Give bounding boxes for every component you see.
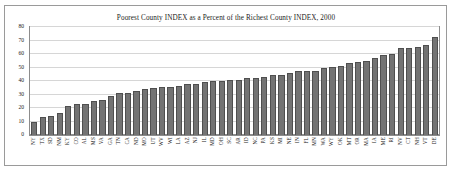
x-tick-label: NV [398,137,403,145]
x-tick-label: CO [74,137,79,145]
x-tick-label: FL [304,137,309,143]
x-tick-label: CT [406,137,411,144]
x-tick-label: NH [415,137,420,145]
bar [423,45,429,135]
chart-title: Poorest County INDEX as a Percent of the… [0,14,452,22]
x-tick-label: ME [381,137,386,145]
x-tick-label: NY [31,137,36,145]
x-tick-label: TX [40,137,45,144]
bar [57,113,63,135]
y-tick-label: 40 [18,78,24,84]
bar [159,87,165,135]
x-tick-label: AR [236,137,241,145]
bar [99,100,105,135]
chart-figure: Poorest County INDEX as a Percent of the… [0,0,452,172]
bar [261,77,267,135]
x-tick-label: SD [48,137,53,144]
bar [193,84,199,135]
bar [202,82,208,135]
x-tick-label: TN [116,137,121,144]
bar [125,93,131,135]
y-tick-label: 30 [18,92,24,98]
x-tick-label: MI [278,137,283,144]
bar-series [30,27,439,135]
bar [372,58,378,135]
x-tick-label: NJ [193,137,198,143]
x-tick-label: VT [423,137,428,144]
x-tick-label: VA [99,137,104,144]
bar [346,63,352,135]
bar [406,48,412,135]
bar [176,86,182,135]
bar [133,91,139,135]
x-tick-label: WV [159,137,164,146]
bar [321,68,327,136]
x-tick-label: OH [219,137,224,145]
x-tick-label: MN [312,137,317,146]
x-tick-label: OK [338,137,343,145]
x-tick-label: RI [389,137,394,143]
bar [389,54,395,135]
bar [329,67,335,135]
bar [227,80,233,135]
bar [380,55,386,135]
x-tick-label: NC [253,137,258,145]
x-tick-label: CA [125,137,130,145]
x-tick-label: AL [82,137,87,144]
bar [142,89,148,135]
x-tick-label: AZ [185,137,190,144]
bar [219,81,225,135]
bar [82,104,88,135]
bar [295,71,301,135]
x-tick-label: LA [176,137,181,144]
bar [270,75,276,135]
bar [287,73,293,135]
y-tick-label: 10 [18,119,24,125]
bar [74,104,80,135]
bar [415,47,421,135]
x-tick-label: WA [321,137,326,145]
bar [108,96,114,135]
x-tick-label: ID [244,137,249,143]
x-tick-label: ND [134,137,139,145]
bar [65,106,71,135]
bar [236,80,242,135]
bar [150,88,156,135]
x-tick-label: WY [329,137,334,146]
x-tick-label: IL [202,137,207,142]
x-tick-label: GA [108,137,113,145]
y-tick-label: 60 [18,51,24,57]
y-tick-label: 20 [18,105,24,111]
bar [432,37,438,135]
x-tick-label: MT [347,137,352,145]
bar [338,66,344,135]
bar [278,75,284,135]
x-tick-label: NM [57,137,62,146]
x-tick-label: MO [142,137,147,146]
bar [312,71,318,135]
x-tick-label: SC [227,137,232,144]
bar [210,81,216,135]
bar [184,84,190,135]
bar [244,78,250,135]
x-axis-tick-labels: NYTXSDNMKYCOALMSVAGATNCANDMOUTWVWILAAZNJ… [30,137,439,163]
x-tick-label: MD [210,137,215,146]
x-tick-label: PA [261,137,266,144]
bar [31,122,37,135]
x-tick-label: MA [364,137,369,146]
bar [91,101,97,135]
x-tick-label: WI [168,137,173,144]
bar [304,71,310,135]
bar [363,61,369,135]
x-tick-label: MS [91,137,96,145]
x-tick-label: KY [65,137,70,145]
x-tick-label: DE [432,137,437,144]
bar [48,116,54,135]
bar [398,48,404,135]
y-tick-label: 70 [18,38,24,44]
bar [116,93,122,135]
x-tick-label: KS [270,137,275,144]
bar [167,87,173,135]
x-tick-label: OR [355,137,360,145]
bar [253,78,259,135]
